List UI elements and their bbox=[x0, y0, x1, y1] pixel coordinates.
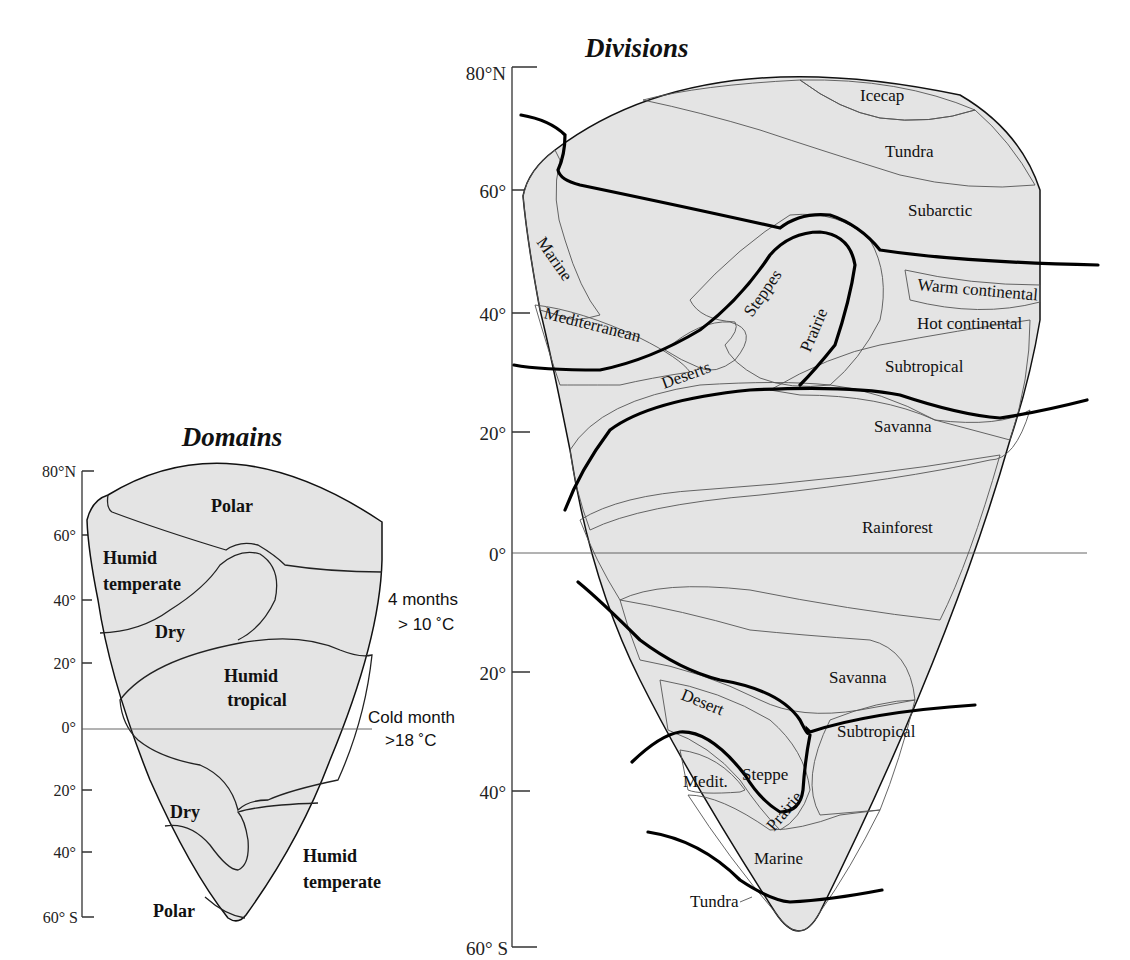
domains-latitude-axis: 80°N 60° 40° 20° 0° 20° 40° 60° S bbox=[42, 463, 94, 926]
divisions-title: Divisions bbox=[584, 33, 689, 63]
domains-tick-80n: 80°N bbox=[42, 463, 76, 480]
domains-tick-60n: 60° bbox=[54, 527, 76, 544]
div-label-subarctic: Subarctic bbox=[908, 201, 973, 220]
domains-tick-40n: 40° bbox=[54, 592, 76, 609]
domains-label-humid-tropical-1: Humid bbox=[224, 666, 278, 686]
domains-tick-0: 0° bbox=[62, 719, 76, 736]
div-label-marine-south: Marine bbox=[754, 849, 803, 868]
div-label-medit-south: Medit. bbox=[683, 772, 728, 791]
divisions-tick-0: 0° bbox=[489, 544, 506, 565]
div-label-icecap: Icecap bbox=[860, 86, 904, 105]
divisions-tick-40s: 40° bbox=[479, 782, 506, 803]
note-four-months-2: > 10 ˚C bbox=[398, 615, 454, 634]
domains-tick-20s: 20° bbox=[54, 782, 76, 799]
domains-tick-60s: 60° S bbox=[43, 909, 78, 926]
domains-label-humid-tropical-2: tropical bbox=[227, 690, 287, 710]
domains-label-polar-south: Polar bbox=[153, 901, 195, 921]
domains-label-humid-temperate-n2: temperate bbox=[103, 574, 181, 594]
domains-tick-20n: 20° bbox=[54, 655, 76, 672]
domains-label-humid-temperate-n1: Humid bbox=[103, 548, 157, 568]
note-cold-month-2: >18 ˚C bbox=[385, 731, 437, 750]
divisions-tick-40n: 40° bbox=[479, 304, 506, 325]
domains-label-dry-north: Dry bbox=[155, 622, 185, 642]
div-label-hot-continental: Hot continental bbox=[917, 314, 1023, 333]
divisions-panel: Divisions 80°N 60° 40° 20° 0° 20° 40° 60… bbox=[466, 33, 1098, 959]
tundra-leader-line bbox=[740, 897, 752, 902]
domains-panel: Domains 80°N 60° 40° 20° 0° 20° 40° 60° … bbox=[42, 422, 458, 926]
note-cold-month-1: Cold month bbox=[368, 708, 455, 727]
div-label-steppe-south: Steppe bbox=[742, 765, 788, 784]
div-label-subtropical-south: Subtropical bbox=[837, 722, 916, 741]
domains-label-dry-south: Dry bbox=[170, 802, 200, 822]
note-four-months-1: 4 months bbox=[388, 590, 458, 609]
divisions-tick-60n: 60° bbox=[479, 181, 506, 202]
domains-label-humid-temperate-s1: Humid bbox=[303, 846, 357, 866]
ecoregion-diagram: Domains 80°N 60° 40° 20° 0° 20° 40° 60° … bbox=[0, 0, 1130, 960]
div-label-savanna-north: Savanna bbox=[874, 417, 932, 436]
div-label-subtropical-north: Subtropical bbox=[885, 357, 964, 376]
divisions-tick-20n: 20° bbox=[479, 423, 506, 444]
domains-label-humid-temperate-s2: temperate bbox=[303, 872, 381, 892]
domains-tick-40s: 40° bbox=[54, 844, 76, 861]
domains-title: Domains bbox=[181, 422, 283, 452]
div-label-tundra-north: Tundra bbox=[885, 142, 934, 161]
div-label-tundra-south: Tundra bbox=[690, 892, 739, 911]
divisions-tick-60s: 60° S bbox=[466, 938, 508, 959]
div-label-savanna-south: Savanna bbox=[829, 668, 887, 687]
div-label-rainforest: Rainforest bbox=[862, 518, 933, 537]
divisions-tick-80n: 80°N bbox=[466, 63, 507, 84]
domains-label-polar-north: Polar bbox=[211, 496, 253, 516]
divisions-tick-20s: 20° bbox=[479, 663, 506, 684]
